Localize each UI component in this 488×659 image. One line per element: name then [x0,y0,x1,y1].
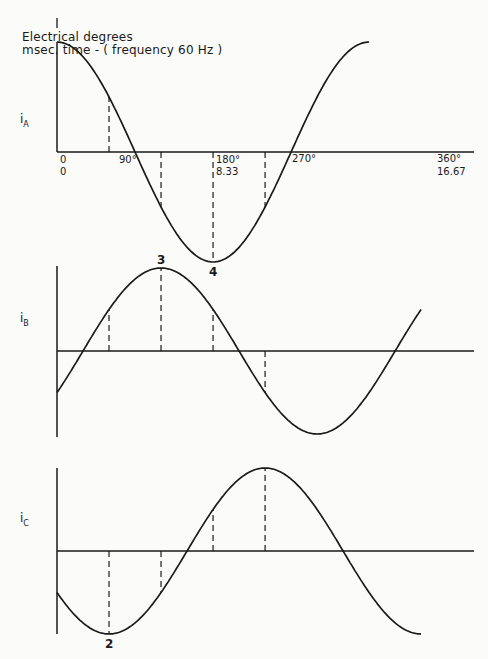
ia-label: iA [20,112,29,129]
tick-msec-0: 0 [60,166,66,177]
iA-point-label: 4 [209,265,217,279]
tick-deg-90: 90° [119,154,137,165]
ib-label: iB [20,311,29,328]
tick-deg-360: 360° [437,153,461,164]
tick-msec-360: 16.67 [437,166,466,177]
tick-msec-180: 8.33 [216,166,238,177]
ic-label: iC [20,511,29,528]
iC-point-label: 2 [105,637,113,651]
tick-deg-180: 180° [216,154,240,165]
tick-deg-270: 270° [292,153,316,164]
tick-deg-0: 0 [60,154,66,165]
waveform-plot: iA iB iC 0 0 90° 180° 8.33 270° 360° 16.… [0,0,488,659]
iB-point-label: 3 [157,253,165,267]
